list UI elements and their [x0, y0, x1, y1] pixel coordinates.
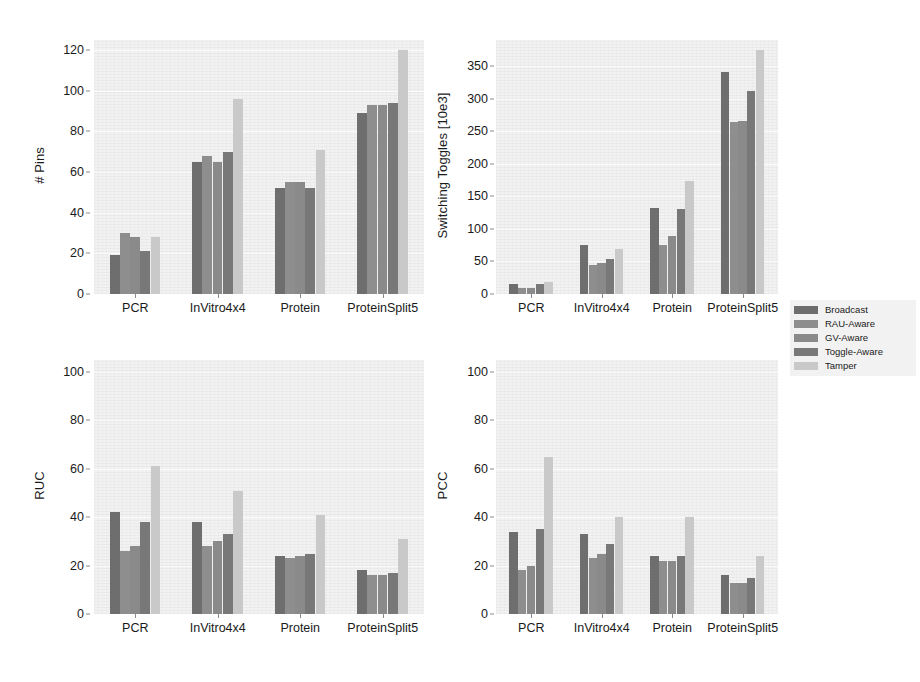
gridline [496, 469, 778, 470]
plot-area: PCRInVitro4x4ProteinProteinSplit5 [94, 40, 424, 294]
figure-grouped-bar-charts: # Pins 020406080100120 PCRInVitro4x4Prot… [0, 0, 920, 682]
x-tick-mark [743, 294, 744, 298]
bar [140, 251, 150, 294]
x-tick-mark [383, 294, 384, 298]
bar [367, 575, 377, 614]
gridline [496, 99, 778, 100]
x-tick-label: InVitro4x4 [574, 302, 630, 315]
legend-item: Tamper [794, 359, 912, 372]
x-tick-mark [602, 614, 603, 618]
x-tick-label: PCR [518, 302, 544, 315]
y-axis-ticks: 050100150200250300350 [454, 22, 494, 334]
x-tick-mark [383, 614, 384, 618]
bar [536, 529, 544, 614]
gridline [496, 420, 778, 421]
y-tick-label: 250 [467, 125, 488, 138]
bar [378, 105, 388, 294]
x-axis-labels: PCRInVitro4x4ProteinProteinSplit5 [94, 302, 424, 320]
legend-label: Broadcast [825, 305, 868, 315]
bar [730, 122, 738, 294]
x-tick-label: PCR [122, 302, 148, 315]
bar [527, 566, 535, 614]
x-tick-label: Protein [280, 622, 320, 635]
y-tick-label: 20 [474, 559, 488, 572]
bar [589, 558, 597, 614]
gridline [496, 66, 778, 67]
y-tick-label: 20 [70, 559, 84, 572]
bar [295, 556, 305, 614]
bar [223, 534, 233, 614]
y-axis-label: Switching Toggles [10e3] [434, 22, 452, 334]
bar [367, 105, 377, 294]
y-tick-mark [86, 90, 90, 91]
bar [110, 512, 120, 614]
y-tick-mark [490, 372, 494, 373]
x-tick-mark [672, 294, 673, 298]
y-tick-label: 100 [467, 223, 488, 236]
bar [606, 544, 614, 614]
y-tick-label: 100 [63, 85, 84, 98]
bar [580, 245, 588, 294]
bar [509, 284, 517, 294]
bar [518, 570, 526, 614]
bar [233, 99, 243, 294]
x-tick-mark [531, 294, 532, 298]
y-tick-label: 50 [474, 255, 488, 268]
legend-swatch [794, 306, 818, 314]
y-tick-label: 0 [481, 608, 488, 621]
bar [275, 188, 285, 294]
bar [659, 561, 667, 614]
legend-item: Broadcast [794, 303, 912, 316]
bar [536, 284, 544, 294]
x-tick-mark [531, 614, 532, 618]
bar [509, 532, 517, 614]
gridline [94, 420, 424, 421]
y-tick-mark [86, 50, 90, 51]
y-axis-label: RUC [30, 342, 48, 654]
gridline [94, 50, 424, 51]
bar [721, 575, 729, 614]
legend-label: Toggle-Aware [825, 347, 883, 357]
bar [685, 517, 693, 614]
y-tick-mark [490, 565, 494, 566]
y-tick-mark [490, 66, 494, 67]
x-tick-label: ProteinSplit5 [707, 622, 778, 635]
gridline [496, 372, 778, 373]
y-tick-label: 0 [77, 288, 84, 301]
legend-swatch [794, 334, 818, 342]
legend-item: GV-Aware [794, 331, 912, 344]
bar [192, 162, 202, 294]
bar [747, 91, 755, 294]
bar [677, 209, 685, 294]
bar [223, 152, 233, 294]
x-tick-label: Protein [280, 302, 320, 315]
bar [668, 236, 676, 294]
y-tick-label: 300 [467, 92, 488, 105]
y-tick-label: 60 [474, 463, 488, 476]
y-tick-label: 120 [63, 44, 84, 57]
y-tick-label: 150 [467, 190, 488, 203]
bar [233, 491, 243, 614]
x-tick-label: ProteinSplit5 [347, 622, 418, 635]
y-tick-mark [86, 420, 90, 421]
legend: BroadcastRAU-AwareGV-AwareToggle-AwareTa… [790, 300, 916, 376]
y-axis-label: PCC [434, 342, 452, 654]
x-axis-labels: PCRInVitro4x4ProteinProteinSplit5 [496, 302, 778, 320]
bar [597, 554, 605, 614]
x-tick-label: InVitro4x4 [574, 622, 630, 635]
chart-panel-ruc: RUC 020406080100 PCRInVitro4x4ProteinPro… [28, 342, 428, 654]
bar [316, 515, 326, 614]
y-tick-mark [490, 517, 494, 518]
legend-label: RAU-Aware [825, 319, 875, 329]
gridline [94, 517, 424, 518]
bar [544, 282, 552, 294]
y-tick-label: 80 [474, 414, 488, 427]
y-tick-mark [490, 228, 494, 229]
y-tick-mark [86, 468, 90, 469]
y-tick-mark [490, 294, 494, 295]
plot-area: PCRInVitro4x4ProteinProteinSplit5 [496, 40, 778, 294]
bar [305, 188, 315, 294]
y-tick-label: 100 [467, 366, 488, 379]
y-axis-label: # Pins [30, 22, 48, 334]
bar [606, 259, 614, 294]
